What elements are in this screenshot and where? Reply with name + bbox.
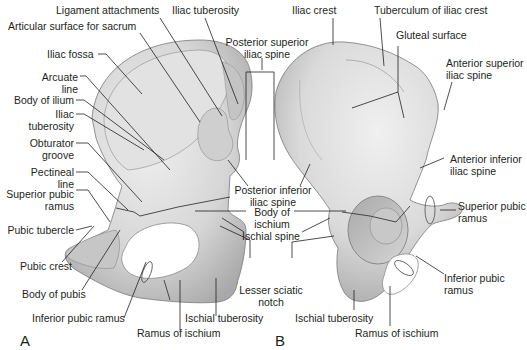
label-superior-pubic-ramus-B-2: ramus [458, 212, 487, 224]
label-lesser-sciatic-1: Lesser sciatic [226, 284, 316, 296]
label-tuberculum: Tuberculum of iliac crest [374, 4, 487, 16]
label-anterior-superior-1: Anterior superior [446, 57, 524, 69]
label-ramus-of-ischium-B: Ramus of ischium [355, 327, 438, 339]
leader-pubic-tubercle [76, 226, 92, 230]
label-arcuate-line-1: Arcuate [36, 71, 78, 83]
bone-medial-view [65, 40, 252, 303]
label-anterior-superior-2: iliac spine [446, 69, 492, 81]
label-superior-pubic-ramus-B-1: Superior pubic [458, 200, 526, 212]
label-posterior-superior-1: Posterior superior [212, 36, 322, 48]
label-iliac-tuberosity-2: tuberosity [20, 120, 74, 132]
label-iliac-fossa: Iliac fossa [47, 48, 94, 60]
leader-anterior-superior [444, 82, 452, 110]
label-pubic-tubercle: Pubic tubercle [0, 224, 74, 236]
leader-superior-pubic-ramus [76, 190, 110, 222]
label-obturator-groove-1: Obturator [20, 137, 74, 149]
label-ramus-of-ischium: Ramus of ischium [137, 327, 220, 339]
label-ischial-spine: Ischial spine [226, 230, 316, 242]
label-anterior-inferior-1: Anterior inferior [450, 153, 522, 165]
label-body-of-ischium-1: Body of [232, 206, 312, 218]
label-gluteal-surface: Gluteal surface [396, 29, 467, 41]
label-posterior-inferior-1: Posterior inferior [218, 184, 328, 196]
label-ischial-tuberosity-B: Ischial tuberosity [295, 312, 373, 324]
label-iliac-tuberosity-top: Iliac tuberosity [172, 4, 239, 16]
label-anterior-inferior-2: iliac spine [450, 165, 496, 177]
label-superior-pubic-ramus-2: ramus [0, 200, 74, 212]
label-body-of-ischium-2: ischium [232, 218, 312, 230]
acetabular-fossa [370, 208, 402, 244]
label-body-of-pubis: Body of pubis [22, 288, 86, 300]
panel-label-B: B [275, 332, 285, 349]
bone-lateral-view [275, 42, 462, 302]
label-iliac-crest: Iliac crest [292, 4, 336, 16]
label-posterior-superior-2: iliac spine [212, 48, 322, 60]
label-pectineal-line-1: Pectineal [20, 166, 74, 178]
label-iliac-tuberosity-1: Iliac [20, 108, 74, 120]
label-inferior-pubic-ramus: Inferior pubic ramus [32, 312, 125, 324]
leader-inferior-pubic-ramus-B [416, 256, 444, 274]
label-pubic-crest: Pubic crest [20, 260, 72, 272]
hip-bone-figure: Ligament attachments Iliac tuberosity Ar… [0, 0, 527, 350]
label-superior-pubic-ramus-1: Superior pubic [0, 188, 74, 200]
label-lesser-sciatic-2: notch [226, 296, 316, 308]
label-inferior-pubic-ramus-B-2: ramus [444, 284, 473, 296]
label-articular-surface: Articular surface for sacrum [8, 20, 136, 32]
panel-label-A: A [20, 332, 30, 349]
label-ischial-tuberosity-A: Ischial tuberosity [185, 312, 263, 324]
label-obturator-groove-2: groove [20, 149, 74, 161]
label-inferior-pubic-ramus-B-1: Inferior pubic [444, 272, 505, 284]
label-body-of-ilium: Body of ilium [0, 94, 74, 106]
label-ligament-attachments: Ligament attachments [56, 4, 159, 16]
